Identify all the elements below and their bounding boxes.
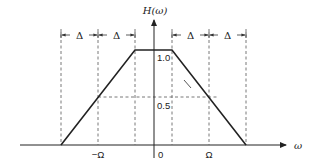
x-axis-label: ω	[294, 140, 302, 151]
tick-label-one: 1.0	[157, 52, 170, 63]
delta-label-2: Δ	[113, 30, 120, 41]
tick-label-omega: Ω	[205, 149, 212, 160]
tick-label-half: 0.5	[157, 100, 170, 111]
frequency-response-diagram: Δ Δ Δ Δ H(ω) ω 1.0 0.5 −Ω 0 Ω	[0, 0, 309, 168]
delta-label-4: Δ	[224, 30, 231, 41]
delta-label-1: Δ	[76, 30, 83, 41]
y-axis-label: H(ω)	[142, 5, 168, 16]
tick-label-zero: 0	[158, 149, 163, 160]
slope-mark	[184, 80, 191, 88]
tick-label-minus-omega: −Ω	[92, 149, 105, 160]
delta-label-3: Δ	[187, 30, 194, 41]
